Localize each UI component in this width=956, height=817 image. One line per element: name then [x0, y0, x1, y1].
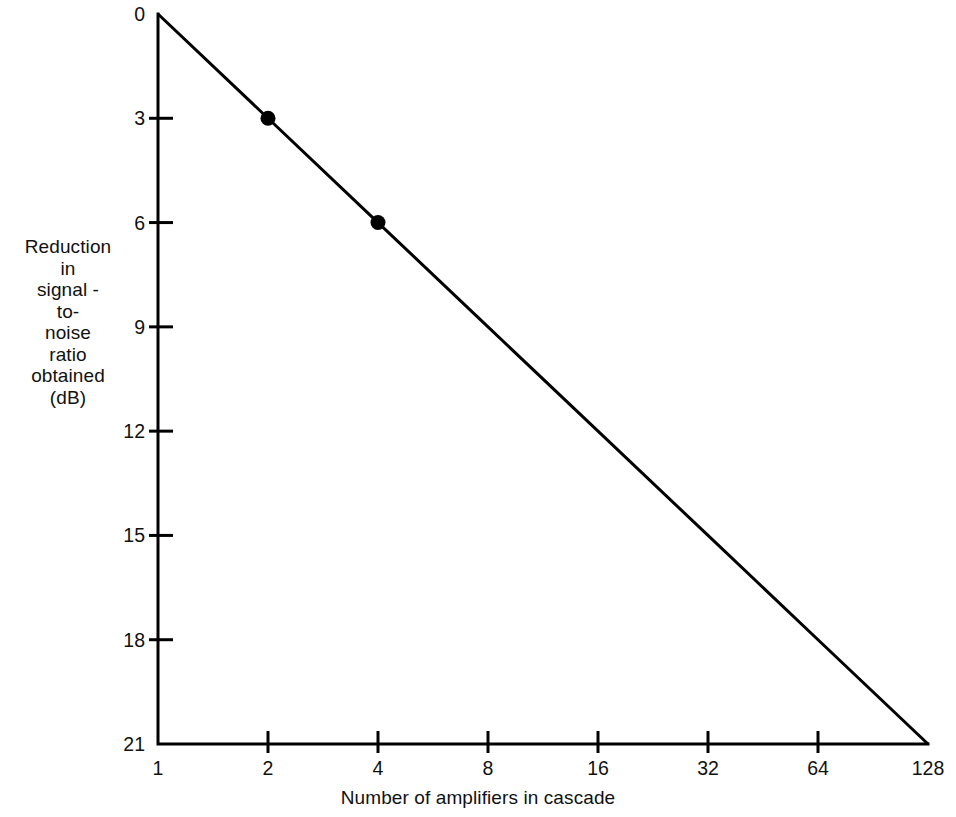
tick-marks — [149, 118, 818, 753]
data-point-marker — [371, 215, 386, 230]
data-point-marker — [261, 111, 276, 126]
plot-area — [0, 0, 956, 817]
chart-figure: Reduction in signal - to- noise ratio ob… — [0, 0, 956, 817]
data-series — [158, 14, 928, 744]
series-line — [158, 14, 928, 744]
